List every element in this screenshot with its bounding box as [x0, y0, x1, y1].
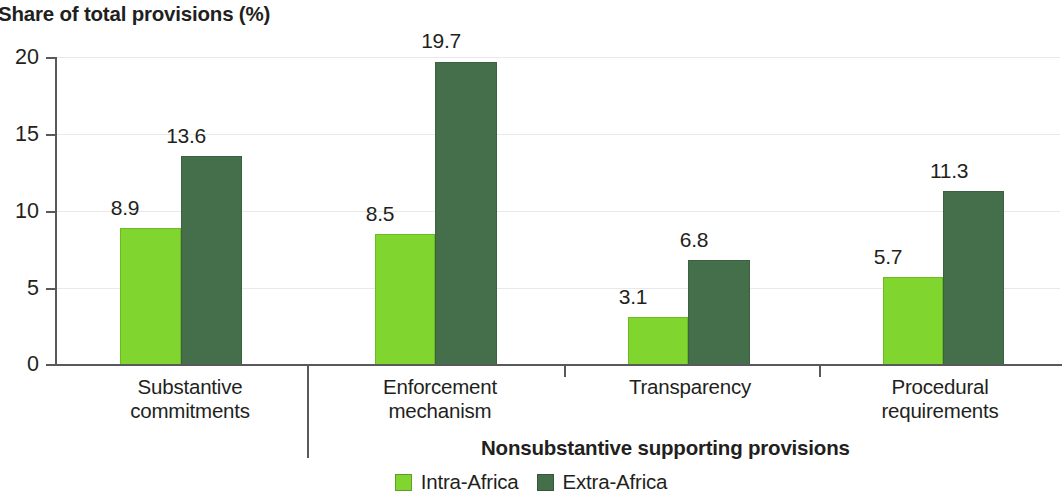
- value-label-intra-enforcement-mechanism: 8.5: [335, 202, 425, 226]
- chart-legend: Intra-Africa Extra-Africa: [0, 470, 1062, 494]
- group-label-line-1: Enforcement: [315, 375, 565, 399]
- value-label-intra-substantive-commitments: 8.9: [80, 196, 170, 220]
- bar-extra-enforcement-mechanism: [435, 62, 497, 365]
- x-axis-line: [55, 364, 1062, 366]
- gridline-20: [55, 57, 1060, 58]
- group-label-line-2: requirements: [818, 399, 1062, 423]
- value-label-intra-transparency: 3.1: [588, 285, 678, 309]
- legend-swatch-icon-extra-africa: [537, 474, 554, 491]
- legend-swatch-icon-intra-africa: [395, 474, 412, 491]
- value-label-extra-procedural-requirements: 11.3: [904, 159, 994, 183]
- bar-intra-procedural-requirements: [883, 277, 943, 365]
- group-label-line-1: Substantive: [65, 375, 315, 399]
- value-label-extra-transparency: 6.8: [649, 228, 739, 252]
- value-label-extra-enforcement-mechanism: 19.7: [396, 29, 486, 53]
- bar-intra-substantive-commitments: [120, 228, 181, 365]
- bar-extra-procedural-requirements: [943, 191, 1004, 365]
- y-tick-10: [46, 211, 55, 213]
- group-label-line-2: commitments: [65, 399, 315, 423]
- legend-item-extra-africa: Extra-Africa: [537, 470, 668, 494]
- group-label-line-1: Transparency: [565, 375, 815, 399]
- legend-item-intra-africa: Intra-Africa: [395, 470, 519, 494]
- bar-extra-substantive-commitments: [181, 156, 242, 365]
- y-axis-label-20: 20: [0, 47, 39, 69]
- group-label-line-2: mechanism: [315, 399, 565, 423]
- plot-area: [55, 57, 1060, 365]
- y-axis-label-0: 0: [0, 354, 39, 376]
- value-label-extra-substantive-commitments: 13.6: [141, 124, 231, 148]
- value-label-intra-procedural-requirements: 5.7: [843, 245, 933, 269]
- legend-label-extra-africa: Extra-Africa: [563, 470, 668, 494]
- group-label-line-1: Procedural: [818, 375, 1062, 399]
- bar-chart: Share of total provisions (%) 20 15 10 5…: [0, 0, 1062, 500]
- bar-intra-enforcement-mechanism: [375, 234, 435, 365]
- y-tick-0: [46, 364, 55, 366]
- bar-intra-transparency: [628, 317, 688, 365]
- y-axis-label-15: 15: [0, 124, 39, 146]
- legend-label-intra-africa: Intra-Africa: [421, 470, 519, 494]
- bar-extra-transparency: [688, 260, 750, 365]
- y-axis-label-5: 5: [0, 278, 39, 300]
- x-axis-group-label-substantive-commitments: Substantive commitments: [65, 375, 315, 423]
- y-axis-line: [55, 57, 57, 365]
- chart-title: Share of total provisions (%): [0, 2, 270, 26]
- section-label-nonsubstantive: Nonsubstantive supporting provisions: [481, 436, 850, 460]
- x-axis-group-label-enforcement-mechanism: Enforcement mechanism: [315, 375, 565, 423]
- y-tick-20: [46, 57, 55, 59]
- y-axis-label-10: 10: [0, 201, 39, 223]
- y-tick-15: [46, 134, 55, 136]
- y-tick-5: [46, 288, 55, 290]
- x-axis-group-label-transparency: Transparency: [565, 375, 815, 399]
- x-axis-group-label-procedural-requirements: Procedural requirements: [818, 375, 1062, 423]
